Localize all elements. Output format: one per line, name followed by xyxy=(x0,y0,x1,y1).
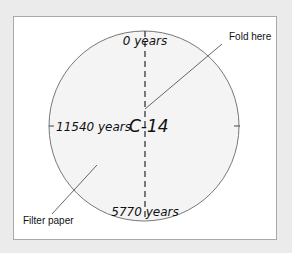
paper-callout: Filter paper xyxy=(23,215,74,226)
bottom-label: 5770 years xyxy=(111,205,178,219)
left-label: 11540 years xyxy=(56,120,131,134)
fold-callout: Fold here xyxy=(229,31,272,42)
filter-paper-diagram: 0 years 5770 years 11540 years C-14 Fold… xyxy=(0,0,292,253)
center-label: C-14 xyxy=(129,116,169,136)
top-label: 0 years xyxy=(123,34,167,48)
